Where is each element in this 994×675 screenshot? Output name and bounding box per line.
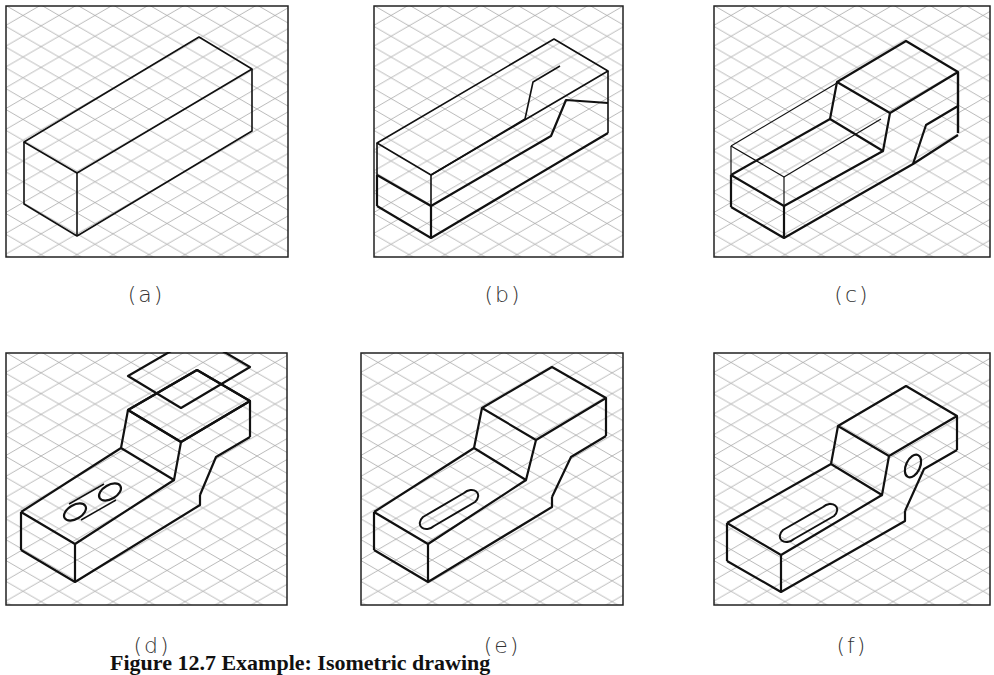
isometric-drawing-c bbox=[713, 5, 991, 258]
panel-label-f: (f) bbox=[812, 633, 892, 658]
panel-label-c: (c) bbox=[812, 282, 892, 307]
panel-d bbox=[5, 352, 288, 606]
panel-f bbox=[713, 352, 991, 606]
isometric-drawing-b bbox=[373, 5, 624, 258]
figure-caption: Figure 12.7 Example: Isometric drawing bbox=[110, 650, 490, 675]
panel-e bbox=[360, 352, 624, 606]
panel-b bbox=[373, 5, 624, 258]
isometric-drawing-a bbox=[5, 5, 289, 258]
panel-c bbox=[713, 5, 991, 258]
isometric-drawing-d bbox=[5, 352, 288, 606]
panel-label-a: (a) bbox=[106, 282, 186, 307]
panel-label-b: (b) bbox=[463, 282, 543, 307]
isometric-drawing-f bbox=[713, 352, 991, 606]
panel-a bbox=[5, 5, 289, 258]
isometric-drawing-e bbox=[360, 352, 624, 606]
